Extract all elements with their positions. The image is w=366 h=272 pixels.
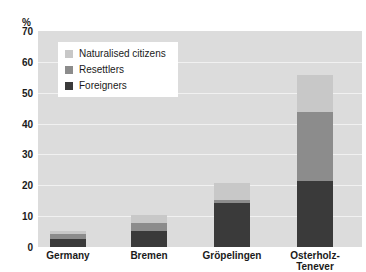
y-tick-label: 10 — [3, 211, 33, 222]
bar-segment — [297, 75, 333, 112]
legend-swatch-icon — [65, 66, 73, 74]
x-tick-label-line: Osterholz- — [260, 250, 366, 261]
bar-segment — [214, 183, 250, 200]
y-tick-label: 70 — [3, 26, 33, 37]
y-tick-label: 30 — [3, 149, 33, 160]
legend-item-naturalised-citizens[interactable]: Naturalised citizens — [65, 47, 166, 60]
bar-osterholz-tenever[interactable] — [297, 54, 333, 247]
bar-segment — [131, 231, 167, 247]
legend-label: Resettlers — [79, 64, 124, 75]
bar-segment — [214, 203, 250, 247]
y-tick-label: 40 — [3, 118, 33, 129]
bar-segment — [50, 234, 86, 239]
legend-swatch-icon — [65, 50, 73, 58]
chart-legend: Naturalised citizens Resettlers Foreigne… — [58, 42, 178, 97]
bar-segment — [297, 112, 333, 181]
bar-gropelingen[interactable] — [214, 130, 250, 247]
y-axis-tick-labels: 70 60 50 40 30 20 10 0 — [0, 31, 33, 247]
x-axis-tick-labels: Germany Bremen Gröpelingen Osterholz- Te… — [38, 250, 362, 272]
stacked-bar-chart: % 70 60 50 40 30 20 10 0 Germany — [0, 0, 366, 272]
bar-bremen[interactable] — [131, 164, 167, 247]
x-tick-label-osterholz-tenever: Osterholz- Tenever — [260, 250, 366, 272]
y-tick-label: 60 — [3, 56, 33, 67]
bar-segment — [214, 200, 250, 203]
y-tick-label: 50 — [3, 87, 33, 98]
legend-item-foreigners[interactable]: Foreigners — [65, 79, 166, 92]
x-tick-label-line: Tenever — [260, 261, 366, 272]
bar-germany[interactable] — [50, 188, 86, 247]
legend-label: Foreigners — [79, 80, 127, 91]
bar-segment — [131, 223, 167, 231]
legend-label: Naturalised citizens — [79, 48, 166, 59]
bar-segment — [50, 231, 86, 234]
legend-item-resettlers[interactable]: Resettlers — [65, 63, 166, 76]
bar-segment — [50, 239, 86, 247]
legend-swatch-icon — [65, 82, 73, 90]
y-tick-label: 20 — [3, 180, 33, 191]
bar-segment — [297, 181, 333, 247]
bar-segment — [131, 215, 167, 223]
